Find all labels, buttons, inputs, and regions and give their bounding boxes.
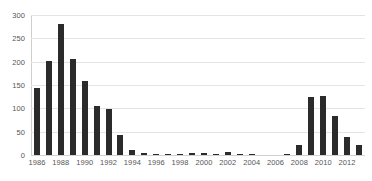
x-tick-label-1988: 1988 (52, 158, 69, 167)
bar-1992 (106, 109, 112, 155)
y-tick-label-250: 250 (12, 34, 25, 43)
bar-1994 (129, 150, 135, 155)
bar-1990 (82, 81, 88, 155)
y-tick-label-150: 150 (12, 81, 25, 90)
x-tick-label-1998: 1998 (172, 158, 189, 167)
y-tick-label-0: 0 (21, 151, 25, 160)
x-tick-label-2000: 2000 (195, 158, 212, 167)
y-tick-label-300: 300 (12, 11, 25, 20)
bar-1997 (165, 154, 171, 155)
y-tick-label-100: 100 (12, 104, 25, 113)
x-tick-label-2006: 2006 (267, 158, 284, 167)
bar-2012 (344, 137, 350, 155)
y-tick-label-200: 200 (12, 57, 25, 66)
x-tick-label-2010: 2010 (315, 158, 332, 167)
gridline-0 (31, 155, 365, 156)
bar-1996 (153, 154, 159, 155)
bar-1995 (141, 153, 147, 155)
bar-chart: 050100150200250300 198619881990199219941… (0, 0, 372, 181)
x-tick-label-1986: 1986 (28, 158, 45, 167)
bar-2000 (201, 153, 207, 155)
bar-1988 (58, 24, 64, 155)
x-tick-label-2002: 2002 (219, 158, 236, 167)
bar-1986 (34, 88, 40, 155)
x-tick-label-1990: 1990 (76, 158, 93, 167)
bar-series (31, 15, 365, 155)
bar-2002 (225, 152, 231, 155)
x-tick-label-2008: 2008 (291, 158, 308, 167)
bar-1999 (189, 153, 195, 155)
y-tick-label-50: 50 (16, 127, 25, 136)
bar-2013 (356, 145, 362, 155)
bar-2008 (296, 145, 302, 155)
bar-2010 (320, 96, 326, 155)
bar-2001 (213, 154, 219, 155)
bar-2007 (284, 154, 290, 155)
bar-2004 (249, 154, 255, 155)
plot-area (31, 15, 365, 155)
x-tick-label-1996: 1996 (148, 158, 165, 167)
bar-1998 (177, 154, 183, 155)
x-tick-label-1992: 1992 (100, 158, 117, 167)
bar-1993 (117, 135, 123, 155)
bar-1989 (70, 59, 76, 155)
bar-2009 (308, 97, 314, 155)
bar-2003 (237, 154, 243, 155)
y-axis-labels: 050100150200250300 (0, 0, 29, 181)
x-axis-labels: 1986198819901992199419961998200020022004… (31, 158, 365, 172)
x-tick-label-2004: 2004 (243, 158, 260, 167)
x-tick-label-1994: 1994 (124, 158, 141, 167)
bar-1991 (94, 106, 100, 155)
bar-2011 (332, 116, 338, 155)
bar-1987 (46, 61, 52, 155)
x-tick-label-2012: 2012 (339, 158, 356, 167)
